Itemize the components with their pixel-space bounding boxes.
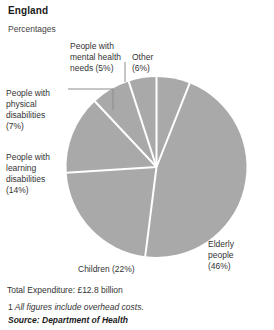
label-elderly-people: Elderly people (46%)	[208, 239, 234, 272]
label-physical-line-2: physical	[6, 99, 50, 110]
label-other: Other (6%)	[132, 52, 153, 74]
label-other-line-2: (6%)	[132, 63, 153, 74]
label-physical-disabilities: People with physical disabilities (7%)	[6, 88, 50, 132]
source-line: Source: Department of Health	[8, 315, 128, 325]
footnote-text: All figures include overhead costs.	[15, 302, 144, 312]
label-learning-line-2: learning	[6, 163, 50, 174]
label-other-line-1: Other	[132, 52, 153, 63]
footnote: 1 All figures include overhead costs.	[8, 302, 144, 312]
pie-slice	[67, 167, 157, 256]
label-learning-line-3: disabilities	[6, 174, 50, 185]
label-physical-line-3: disabilities	[6, 110, 50, 121]
chart-page: England Percentages People with mental h…	[0, 0, 274, 330]
label-elderly-line-1: Elderly	[208, 239, 234, 250]
label-mental-line-2: mental health	[70, 52, 121, 63]
label-mental-line-3: needs (5%)	[70, 63, 121, 74]
label-learning-line-1: People with	[6, 152, 50, 163]
label-children: Children (22%)	[78, 264, 135, 275]
label-elderly-line-2: people	[208, 250, 234, 261]
label-mental-health: People with mental health needs (5%)	[70, 41, 121, 74]
label-mental-line-1: People with	[70, 41, 121, 52]
label-physical-line-4: (7%)	[6, 121, 50, 132]
footnote-number: 1	[8, 302, 13, 312]
label-learning-disabilities: People with learning disabilities (14%)	[6, 152, 50, 196]
total-expenditure: Total Expenditure: £12.8 billion	[7, 285, 123, 295]
label-learning-line-4: (14%)	[6, 185, 50, 196]
label-elderly-line-3: (46%)	[208, 261, 234, 272]
label-physical-line-1: People with	[6, 88, 50, 99]
